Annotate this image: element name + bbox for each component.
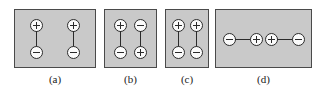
panel-c-dipole-1 xyxy=(172,19,185,59)
panel-a-dipole-1-bottom-charge-minus-icon xyxy=(30,46,43,59)
panel-a xyxy=(14,9,96,68)
panel-b-dipole-1-bottom-charge-minus-icon xyxy=(114,46,127,59)
panel-d xyxy=(215,9,312,68)
plus-vertical-stroke xyxy=(178,22,179,29)
minus-horizontal-stroke xyxy=(193,52,200,53)
minus-horizontal-stroke xyxy=(137,25,144,26)
minus-horizontal-stroke xyxy=(33,52,40,53)
panel-c xyxy=(165,9,209,68)
minus-horizontal-stroke xyxy=(70,52,77,53)
panel-a-caption: (a) xyxy=(14,73,96,85)
plus-vertical-stroke xyxy=(196,22,197,29)
panel-c-dipole-2-bottom-charge-minus-icon xyxy=(190,46,203,59)
minus-horizontal-stroke xyxy=(175,52,182,53)
panel-c-caption: (c) xyxy=(165,73,209,85)
panel-d-dipole-2-right-charge-minus-icon xyxy=(292,33,305,46)
panel-d-dipole-1-right-charge-plus-icon xyxy=(250,33,263,46)
panel-d-dipole-1 xyxy=(223,33,263,46)
panel-b xyxy=(104,9,157,68)
panel-b-content xyxy=(105,10,156,67)
panel-c-content xyxy=(166,10,208,67)
panel-d-dipole-2 xyxy=(265,33,305,46)
minus-horizontal-stroke xyxy=(117,52,124,53)
plus-vertical-stroke xyxy=(271,36,272,43)
panel-b-dipole-2 xyxy=(134,19,147,59)
panel-d-content xyxy=(216,10,311,67)
plus-vertical-stroke xyxy=(256,36,257,43)
panel-d-caption: (d) xyxy=(215,73,312,85)
plus-vertical-stroke xyxy=(120,22,121,29)
panel-c-dipole-2 xyxy=(190,19,203,59)
panel-c-dipole-1-bottom-charge-minus-icon xyxy=(172,46,185,59)
plus-vertical-stroke xyxy=(36,22,37,29)
panel-d-dipole-2-bond xyxy=(277,39,293,40)
panel-b-dipole-2-bottom-charge-plus-icon xyxy=(134,46,147,59)
panel-b-dipole-1 xyxy=(114,19,127,59)
dipole-arrangement-figure: (a) xyxy=(0,0,324,92)
plus-vertical-stroke xyxy=(140,49,141,56)
minus-horizontal-stroke xyxy=(295,39,302,40)
minus-horizontal-stroke xyxy=(226,39,233,40)
panel-b-caption: (b) xyxy=(104,73,157,85)
panel-a-dipole-1 xyxy=(30,19,43,59)
panel-a-content xyxy=(15,10,95,67)
panel-d-dipole-1-bond xyxy=(235,39,251,40)
plus-vertical-stroke xyxy=(73,22,74,29)
panel-a-dipole-2-bottom-charge-minus-icon xyxy=(67,46,80,59)
panel-a-dipole-2 xyxy=(67,19,80,59)
